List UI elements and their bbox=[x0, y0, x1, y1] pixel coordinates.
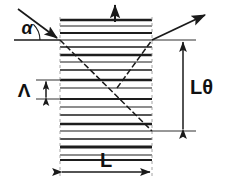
angle-arc-alpha bbox=[33, 24, 40, 40]
period-dimension bbox=[36, 80, 60, 99]
width-label: L bbox=[100, 149, 112, 171]
grating-fringes bbox=[60, 20, 152, 160]
diffracted-ray-exit bbox=[152, 15, 205, 40]
diagram-canvas: Λ Lθ L α bbox=[0, 0, 226, 191]
grating-diagram-svg: Λ Lθ L α bbox=[0, 0, 226, 191]
alpha-label: α bbox=[21, 18, 33, 38]
period-label: Λ bbox=[18, 80, 31, 101]
height-label: Lθ bbox=[190, 76, 213, 98]
transmitted-ray bbox=[60, 40, 152, 131]
